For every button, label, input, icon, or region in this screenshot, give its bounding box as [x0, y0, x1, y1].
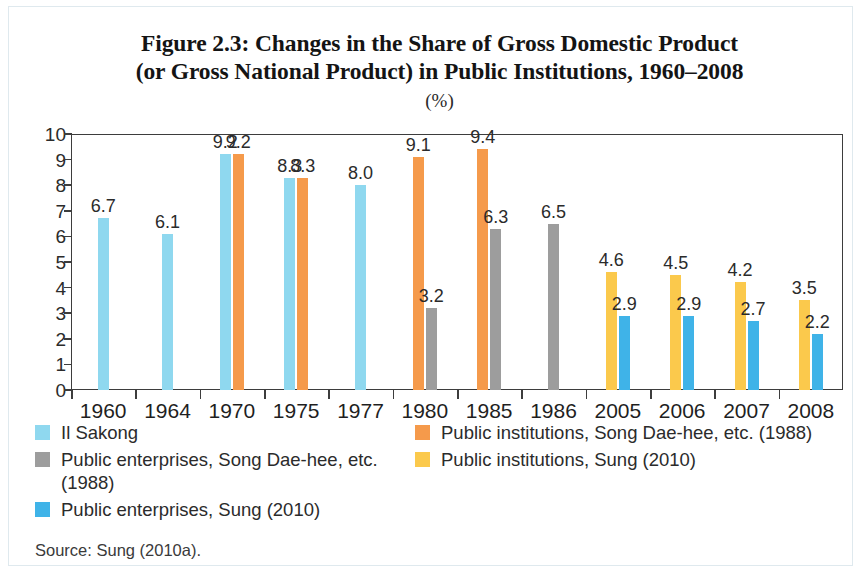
y-axis-tick-label: 6	[33, 227, 66, 246]
bar-group: 3.52.2	[71, 134, 843, 390]
legend-swatch-icon	[35, 502, 50, 517]
page-title-line-1: Figure 2.3: Changes in the Share of Gros…	[9, 29, 861, 57]
legend-swatch-icon	[415, 452, 430, 467]
y-axis-tick-label: 0	[33, 381, 66, 400]
legend-item-label: Public institutions, Song Dae-hee, etc. …	[441, 421, 855, 444]
y-axis-tick-label: 10	[33, 125, 66, 144]
x-axis-tick	[650, 390, 652, 399]
legend-item-label: Il Sakong	[61, 421, 415, 444]
y-axis-tick-label: 8	[33, 176, 66, 195]
legend-item-label: Public enterprises, Sung (2010)	[61, 498, 415, 521]
x-axis-category-label: 2007	[723, 399, 770, 423]
y-axis-labels: 012345678910	[33, 134, 66, 390]
source-note: Source: Sung (2010a).	[35, 541, 201, 560]
legend-item[interactable]: Public institutions, Song Dae-hee, etc. …	[415, 421, 855, 444]
x-axis-tick	[457, 390, 459, 399]
legend-swatch-icon	[415, 425, 430, 440]
legend-item-label: Public enterprises, Song Dae-hee, etc. (…	[61, 448, 415, 494]
x-axis-category-label: 1960	[80, 399, 127, 423]
legend-swatch-icon	[35, 425, 50, 440]
chart-units-label: (%)	[9, 88, 861, 114]
figure-title-block: Figure 2.3: Changes in the Share of Gros…	[9, 29, 861, 114]
x-axis-category-label: 2005	[594, 399, 641, 423]
y-axis-tick-label: 3	[33, 304, 66, 323]
x-axis-tick	[200, 390, 202, 399]
legend-item[interactable]: Public enterprises, Sung (2010)	[35, 498, 415, 521]
chart-plot-area: 012345678910 6.76.19.29.28.38.38.09.13.2…	[9, 127, 861, 417]
x-axis-tick	[264, 390, 266, 399]
x-axis-category-label: 1977	[337, 399, 384, 423]
page-title-line-2: (or Gross National Product) in Public In…	[9, 57, 861, 85]
legend-item[interactable]: Public enterprises, Song Dae-hee, etc. (…	[35, 448, 415, 494]
x-axis-category-label: 2006	[659, 399, 706, 423]
y-axis-tick-label: 9	[33, 150, 66, 169]
bars-layer: 6.76.19.29.28.38.38.09.13.29.46.36.54.62…	[71, 134, 843, 390]
bar-value-label: 3.5	[792, 279, 817, 297]
y-axis-tick-label: 1	[33, 355, 66, 374]
x-axis-category-label: 1980	[401, 399, 448, 423]
x-axis-tick	[521, 390, 523, 399]
y-axis-tick-label: 2	[33, 329, 66, 348]
x-axis-tick	[586, 390, 588, 399]
legend-item-label: Public institutions, Sung (2010)	[441, 448, 855, 471]
legend-column-left: Il SakongPublic enterprises, Song Dae-he…	[35, 421, 415, 525]
x-axis-tick	[779, 390, 781, 399]
x-axis-category-label: 1975	[273, 399, 320, 423]
x-axis-tick	[393, 390, 395, 399]
legend-item[interactable]: Il Sakong	[35, 421, 415, 444]
chart-legend: Il SakongPublic enterprises, Song Dae-he…	[9, 421, 861, 531]
x-axis-tick	[135, 390, 137, 399]
x-axis-tick	[714, 390, 716, 399]
y-axis-tick-label: 5	[33, 253, 66, 272]
x-axis-category-label: 1985	[466, 399, 513, 423]
y-axis-tick-label: 7	[33, 201, 66, 220]
bar[interactable]	[812, 334, 823, 390]
x-axis-category-label: 1970	[208, 399, 255, 423]
figure-container: Figure 2.3: Changes in the Share of Gros…	[8, 6, 853, 566]
x-axis-tick	[328, 390, 330, 399]
bar-value-label: 2.2	[805, 313, 830, 331]
y-axis-tick-label: 4	[33, 278, 66, 297]
x-axis-category-label: 1986	[530, 399, 577, 423]
x-axis-category-label: 2008	[787, 399, 834, 423]
legend-column-right: Public institutions, Song Dae-hee, etc. …	[415, 421, 855, 475]
x-axis-category-label: 1964	[144, 399, 191, 423]
legend-item[interactable]: Public institutions, Sung (2010)	[415, 448, 855, 471]
legend-swatch-icon	[35, 452, 50, 467]
x-axis-tick	[71, 390, 73, 399]
